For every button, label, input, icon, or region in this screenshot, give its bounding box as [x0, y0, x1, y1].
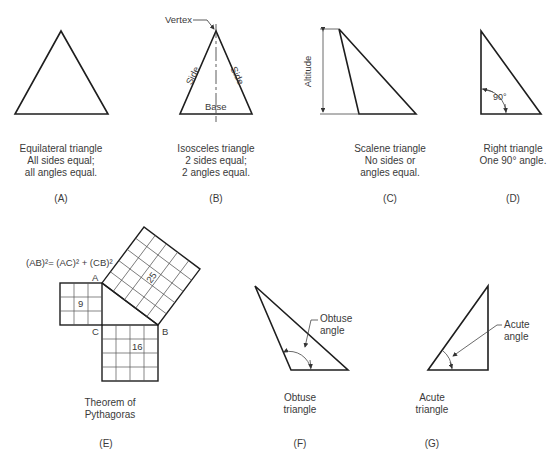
panel-letter-b: (B): [155, 193, 277, 205]
caption-e: Theorem of Pythagoras: [60, 397, 160, 421]
caption-c: Scalene triangle No sides or angles equa…: [335, 143, 445, 179]
acute-angle-label: Acute angle: [504, 319, 530, 343]
point-a-label: A: [92, 272, 98, 283]
panel-letter-g: (G): [382, 438, 482, 450]
point-b-label: B: [162, 326, 168, 337]
point-c-label: C: [92, 326, 99, 337]
panel-letter-d: (D): [470, 193, 556, 205]
panel-letter-c: (C): [335, 193, 445, 205]
caption-a: Equilateral triangle All sides equal; al…: [0, 143, 122, 179]
square-ac-value: 9: [78, 298, 83, 309]
obtuse-angle-label: Obtuse angle: [320, 313, 352, 337]
right-triangle: [481, 31, 541, 114]
altitude-label: Altitude: [302, 56, 313, 88]
acute-triangle: [428, 286, 488, 370]
right-angle-label: 90°: [493, 92, 507, 102]
caption-b: Isosceles triangle 2 sides equal; 2 angl…: [155, 143, 277, 179]
caption-d: Right triangle One 90° angle.: [470, 143, 556, 167]
panel-letter-e: (E): [56, 438, 156, 450]
equilateral-triangle: [15, 31, 108, 114]
scalene-triangle: [339, 29, 416, 114]
caption-g: Acute triangle: [382, 392, 482, 416]
panel-letter-a: (A): [0, 193, 122, 205]
caption-f: Obtuse triangle: [250, 392, 350, 416]
vertex-label: Vertex: [165, 14, 192, 25]
base-label: Base: [205, 101, 227, 112]
pythagoras-formula: (AB)²= (AC)² + (CB)²: [26, 257, 113, 268]
panel-letter-f: (F): [250, 438, 350, 450]
square-cb-value: 16: [132, 341, 143, 352]
